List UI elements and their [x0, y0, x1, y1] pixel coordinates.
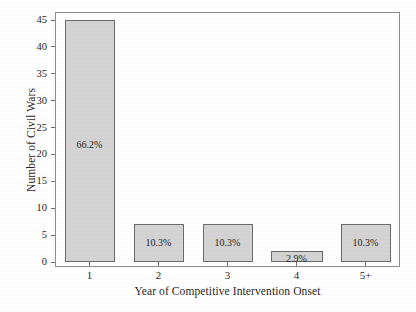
bar: 10.3%	[203, 224, 253, 262]
bar-chart-figure: Number of Civil Wars 051015202530354045 …	[0, 0, 416, 312]
y-tick-label: 25	[25, 120, 47, 136]
bar-value-label: 10.3%	[204, 237, 252, 248]
x-tick-label: 3	[208, 269, 248, 281]
y-tick-label: 20	[25, 146, 47, 162]
bar-value-label: 10.3%	[135, 237, 183, 248]
y-tick-label: 5	[25, 227, 47, 243]
y-tick-label: 15	[25, 173, 47, 189]
y-tick-label: 10	[25, 200, 47, 216]
y-tick-label: 40	[25, 39, 47, 55]
x-tick-label: 5+	[346, 269, 386, 281]
y-tick-label: 35	[25, 66, 47, 82]
x-tick-mark	[158, 262, 159, 266]
bar-value-label: 66.2%	[66, 139, 114, 150]
x-tick-mark	[296, 262, 297, 266]
y-tick-label: 30	[25, 93, 47, 109]
x-tick-mark	[365, 262, 366, 266]
plot-area: 66.2%10.3%10.3%2.9%10.3%	[55, 20, 400, 262]
x-tick-label: 1	[70, 269, 110, 281]
x-tick-label: 2	[139, 269, 179, 281]
y-tick-label: 45	[25, 12, 47, 28]
x-tick-mark	[227, 262, 228, 266]
bar-value-label: 10.3%	[342, 237, 390, 248]
x-tick-label: 4	[277, 269, 317, 281]
bar: 10.3%	[134, 224, 184, 262]
bar: 66.2%	[65, 20, 115, 262]
x-axis-title: Year of Competitive Intervention Onset	[55, 285, 400, 297]
y-tick-label: 0	[25, 254, 47, 270]
x-tick-mark	[89, 262, 90, 266]
bar: 2.9%	[271, 251, 323, 262]
bar: 10.3%	[341, 224, 391, 262]
